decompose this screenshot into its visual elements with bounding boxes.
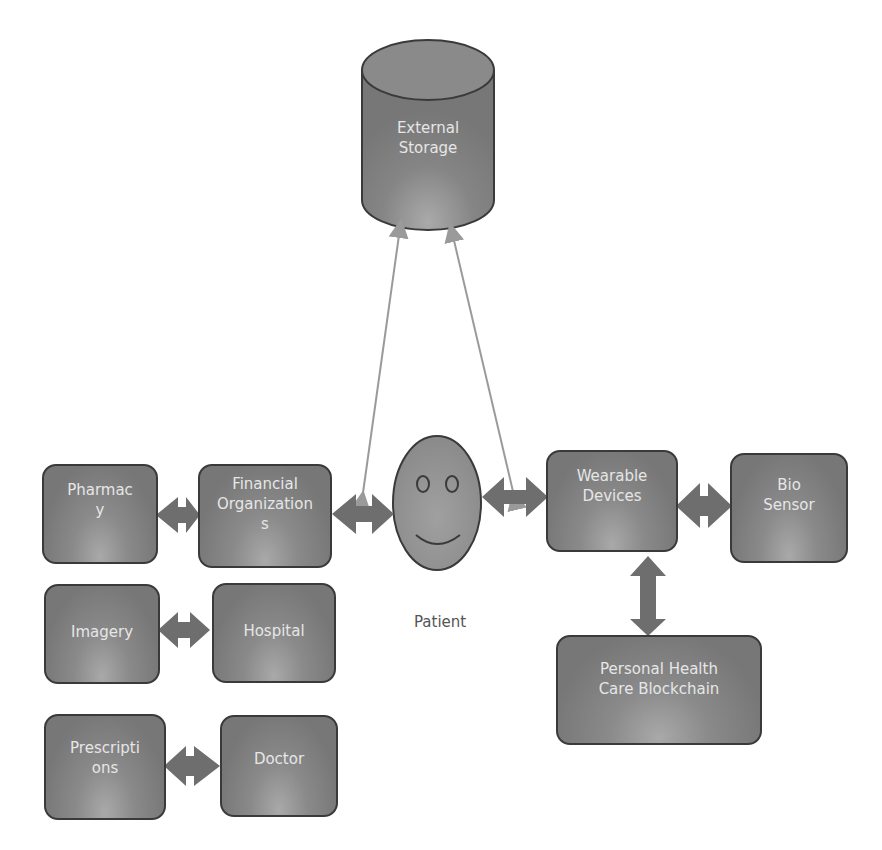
node-prescriptions: Prescripti ons [44,714,166,820]
node-doctor: Doctor [220,715,338,817]
double-arrow-patient-wearable [482,477,548,517]
node-prescriptions-label: Prescripti ons [70,738,140,778]
node-blockchain-label: Personal Health Care Blockchain [599,659,720,699]
double-arrow-prescriptions-doctor [164,746,220,786]
storage-arrow-left [362,228,400,500]
double-arrow-wearable-blockchain [630,556,666,636]
node-personal-health-care-blockchain: Personal Health Care Blockchain [556,635,762,745]
patient-label: Patient [414,613,466,631]
double-arrow-pharmacy-financial [156,497,200,533]
external-storage-label: External Storage [378,118,478,158]
node-doctor-label: Doctor [254,749,304,769]
patient-smiley-icon [393,436,481,570]
node-imagery-label: Imagery [71,622,133,642]
node-wearable-devices: Wearable Devices [546,450,678,552]
node-financial-label: Financial Organization s [217,474,313,534]
node-pharmacy: Pharmac y [42,464,158,564]
double-arrow-imagery-hospital [158,612,210,648]
node-hospital-label: Hospital [243,621,304,641]
node-pharmacy-label: Pharmac y [67,480,133,520]
double-arrow-wearable-biosensor [676,483,732,528]
node-imagery: Imagery [44,584,160,684]
node-bio-sensor: Bio Sensor [730,453,848,563]
node-hospital: Hospital [212,583,336,683]
node-wearable-label: Wearable Devices [577,466,648,506]
node-financial-organizations: Financial Organization s [198,464,332,568]
node-biosensor-label: Bio Sensor [763,475,814,515]
